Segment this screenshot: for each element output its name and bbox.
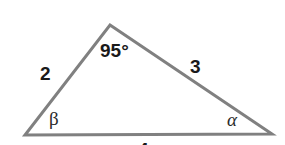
right-side-length-label: 3 [190,57,201,76]
alpha-angle-label: α [227,110,237,129]
apex-angle-label: 95° [100,41,129,60]
base-side-length-label-cropped: 4 [138,140,149,145]
beta-angle-label: β [49,109,59,128]
left-side-length-label: 2 [40,64,51,83]
triangle-figure: 95° 2 3 β α 4 [0,0,285,145]
